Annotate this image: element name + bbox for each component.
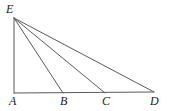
vertex-label-A: A	[9, 95, 16, 107]
segments-group	[14, 18, 154, 93]
vertex-label-C: C	[102, 95, 110, 107]
geometry-figure: E A B C D	[0, 0, 169, 111]
segment-EB	[14, 18, 63, 93]
segment-AD	[14, 92, 154, 93]
vertex-label-E: E	[6, 3, 13, 15]
figure-canvas	[0, 0, 169, 111]
segment-ED	[14, 18, 154, 92]
segment-EC	[14, 18, 105, 93]
vertex-label-D: D	[150, 95, 159, 107]
vertex-label-B: B	[60, 95, 67, 107]
